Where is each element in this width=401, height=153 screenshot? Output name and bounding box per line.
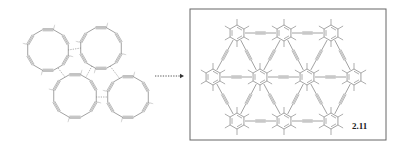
- dotted-reaction-arrow: [155, 74, 184, 78]
- macrocycle-ring: [49, 70, 101, 122]
- reaction-diagram: [0, 0, 401, 153]
- benzene-ring: [324, 113, 338, 129]
- macrocycle-assembly: [23, 23, 153, 122]
- benzene-ring: [347, 69, 361, 85]
- macrocycle-ring: [103, 72, 153, 122]
- benzene-ring: [253, 69, 267, 85]
- compound-number-label: 2.11: [352, 121, 367, 131]
- benzene-ring: [230, 25, 244, 41]
- benzene-ring: [206, 69, 220, 85]
- benzene-ring: [277, 113, 291, 129]
- benzene-ring: [230, 113, 244, 129]
- benzene-ring: [277, 25, 291, 41]
- macrocycle-ring: [76, 23, 126, 73]
- benzene-ring: [324, 25, 338, 41]
- benzene-ring: [300, 69, 314, 85]
- macrocycle-ring: [23, 25, 73, 75]
